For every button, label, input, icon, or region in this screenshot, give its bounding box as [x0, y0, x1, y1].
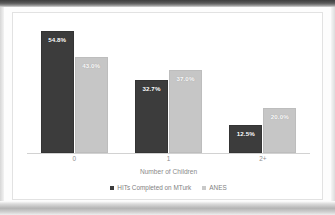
x-axis-title: Number of Children — [13, 168, 324, 175]
legend-swatch-icon — [110, 186, 114, 190]
scan-artifact-left-edge — [0, 7, 4, 201]
scan-artifact-right-edge — [331, 7, 335, 201]
bar-value-label: 20.0% — [264, 113, 295, 120]
legend-item-mturk: HITs Completed on MTurk — [110, 184, 191, 191]
chart-frame: 54.8% 43.0% 32.7% 37.0% 12 — [12, 12, 323, 200]
chart-screenshot: 54.8% 43.0% 32.7% 37.0% 12 — [0, 0, 335, 215]
x-tick-label-1: 1 — [121, 155, 215, 162]
x-tick-label-0: 0 — [27, 155, 121, 162]
plot-area: 54.8% 43.0% 32.7% 37.0% 12 — [27, 19, 310, 153]
scan-artifact-top-band — [0, 0, 335, 7]
x-tick-label-2: 2+ — [216, 155, 310, 162]
bar-group-1: 32.7% 37.0% — [121, 19, 215, 153]
bar-group-0: 54.8% 43.0% — [27, 19, 121, 153]
bar-mturk-2plus: 12.5% — [229, 125, 262, 153]
legend-swatch-icon — [202, 186, 206, 190]
bar-value-label: 37.0% — [170, 75, 201, 82]
x-axis-tick-labels: 0 1 2+ — [27, 155, 310, 162]
chart-legend: HITs Completed on MTurk ANES — [13, 184, 324, 191]
legend-item-anes: ANES — [202, 184, 226, 191]
x-axis-line — [27, 153, 310, 154]
bar-anes-2plus: 20.0% — [263, 108, 296, 153]
bar-value-label: 54.8% — [42, 36, 73, 43]
legend-label: HITs Completed on MTurk — [117, 184, 191, 191]
bar-mturk-1: 32.7% — [135, 80, 168, 153]
bar-anes-1: 37.0% — [169, 70, 202, 153]
bar-value-label: 43.0% — [76, 62, 107, 69]
bar-value-label: 12.5% — [230, 130, 261, 137]
legend-label: ANES — [209, 184, 226, 191]
bar-mturk-0: 54.8% — [41, 31, 74, 153]
bar-group-2plus: 12.5% 20.0% — [216, 19, 310, 153]
bar-value-label: 32.7% — [136, 85, 167, 92]
scan-artifact-bottom-band — [0, 201, 335, 215]
bar-groups: 54.8% 43.0% 32.7% 37.0% 12 — [27, 19, 310, 153]
bar-anes-0: 43.0% — [75, 57, 108, 153]
